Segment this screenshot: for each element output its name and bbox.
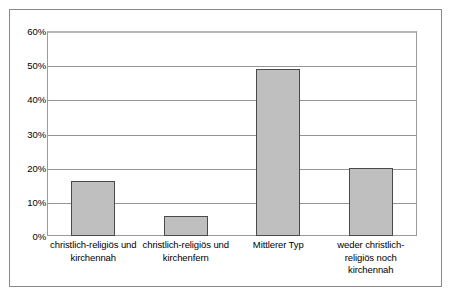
- y-axis: 60% 50% 40% 30% 20% 10% 0%: [10, 31, 46, 236]
- gridline-30: [48, 135, 416, 136]
- x-axis: christlich-religiös und kirchennah chris…: [47, 239, 417, 283]
- gridline-60: [48, 32, 416, 33]
- gridline-20: [48, 169, 416, 170]
- y-axis-tick-label: 40%: [12, 95, 46, 104]
- gridline-40: [48, 100, 416, 101]
- y-axis-tick-label: 10%: [12, 197, 46, 206]
- y-axis-tick-label: 60%: [12, 27, 46, 36]
- gridline-50: [48, 66, 416, 67]
- y-axis-tick-label: 20%: [12, 163, 46, 172]
- x-axis-category-label: christlich-religiös und kirchennah: [47, 239, 140, 283]
- chart-frame: 60% 50% 40% 30% 20% 10% 0%: [9, 9, 442, 287]
- x-axis-category-label: weder christlich-religiös noch kirchenna…: [325, 239, 418, 283]
- y-axis-tick-label: 0%: [12, 232, 46, 241]
- y-axis-tick-label: 50%: [12, 61, 46, 70]
- chart-canvas: 60% 50% 40% 30% 20% 10% 0%: [10, 10, 441, 286]
- x-axis-category-label: Mittlerer Typ: [232, 239, 325, 283]
- gridline-10: [48, 203, 416, 204]
- plot-area: [47, 31, 417, 236]
- y-axis-tick-label: 30%: [12, 129, 46, 138]
- x-axis-category-label: christlich-religiös und kirchenfern: [140, 239, 233, 283]
